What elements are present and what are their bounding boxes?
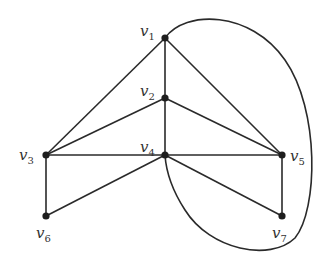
node-v7 [278, 212, 285, 219]
graph-edges [46, 38, 282, 216]
node-label-v7: v7 [272, 224, 287, 244]
node-label-v6: v6 [36, 224, 51, 244]
graph-curved-edges [165, 19, 312, 250]
node-v4 [161, 151, 168, 158]
node-label-v1: v1 [140, 22, 155, 42]
node-v6 [42, 212, 49, 219]
node-v5 [278, 151, 285, 158]
node-label-v2: v2 [140, 82, 155, 102]
edge-v2-v5 [165, 98, 282, 155]
node-v3 [42, 151, 49, 158]
node-v2 [161, 94, 168, 101]
node-label-v4: v4 [140, 138, 155, 158]
node-label-v3: v3 [19, 146, 34, 166]
graph-diagram: v1v2v3v4v5v6v7 [0, 0, 324, 256]
graph-nodes [42, 34, 285, 219]
edge-v1-v5 [165, 38, 282, 155]
graph-labels: v1v2v3v4v5v6v7 [19, 22, 305, 244]
curved-edge-v1-v4 [165, 19, 312, 250]
node-v1 [161, 34, 168, 41]
edge-v4-v6 [46, 155, 165, 216]
node-label-v5: v5 [290, 147, 305, 167]
